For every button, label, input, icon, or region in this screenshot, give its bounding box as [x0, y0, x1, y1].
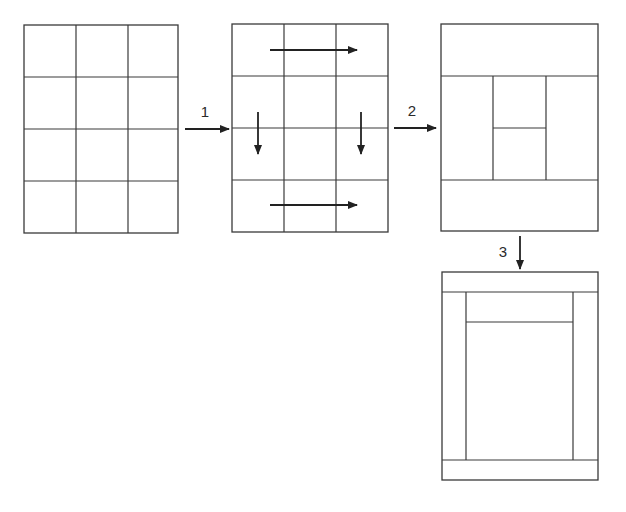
panel-4-final-layout — [442, 272, 598, 480]
step-label: 2 — [408, 102, 416, 119]
step-label: 1 — [201, 103, 209, 120]
step-label: 3 — [499, 243, 507, 260]
transition-step-2: 2 — [394, 102, 436, 128]
panel-2-grid-with-moves — [232, 24, 388, 232]
transitions-layer: 123 — [185, 102, 520, 269]
transition-step-3: 3 — [499, 236, 520, 269]
panel-1-initial-grid — [24, 25, 178, 233]
layout-transformation-diagram: 123 — [0, 0, 626, 512]
panels-layer — [24, 24, 598, 480]
transition-step-1: 1 — [185, 103, 229, 129]
panel-3-merged-layout — [441, 24, 598, 231]
